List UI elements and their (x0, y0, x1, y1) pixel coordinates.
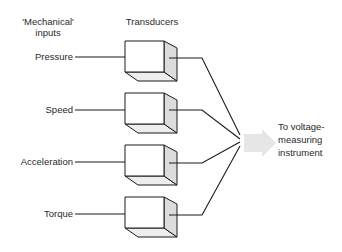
transducer-box-acceleration (125, 145, 177, 185)
output-line-acceleration (169, 142, 240, 163)
transducer-box-pressure (125, 41, 177, 81)
output-line-pressure (169, 58, 240, 135)
transducer-box-torque (125, 197, 177, 237)
output-line-torque (169, 146, 240, 215)
transducer-diagram (0, 0, 342, 252)
transducer-box-speed (125, 93, 177, 133)
output-arrow-icon (244, 129, 276, 157)
